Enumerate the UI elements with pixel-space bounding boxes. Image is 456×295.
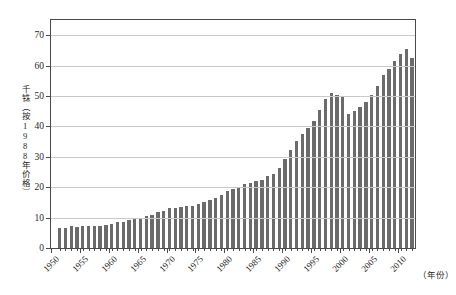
x-axis-minor-tick [77, 248, 78, 251]
x-axis-minor-tick [221, 248, 222, 251]
x-axis-tick [109, 248, 110, 253]
bar [335, 95, 338, 248]
chart-figure: 千铢（按1988年价格） 010203040506070195019551960… [0, 0, 456, 295]
x-axis-minor-tick [262, 248, 263, 251]
x-axis-minor-tick [245, 248, 246, 251]
bar [318, 110, 321, 248]
y-axis-tick [46, 35, 51, 36]
x-axis-minor-tick [94, 248, 95, 251]
bar-series [51, 20, 415, 248]
x-axis-minor-tick [89, 248, 90, 251]
x-axis-minor-tick [331, 248, 332, 251]
gridline [51, 35, 415, 36]
bar [410, 58, 413, 248]
bar [312, 121, 315, 248]
x-axis-minor-tick [250, 248, 251, 251]
bar [127, 220, 130, 248]
gridline [51, 157, 415, 158]
bar [70, 226, 73, 248]
x-axis-tick-label: 1965 [128, 254, 148, 274]
y-axis-tick-label: 70 [35, 30, 45, 40]
x-axis-tick-label: 2005 [359, 254, 379, 274]
plot-area: 0102030405060701950195519601965197019751… [50, 19, 416, 249]
y-axis-tick [46, 218, 51, 219]
x-axis-minor-tick [169, 248, 170, 251]
bar [64, 228, 67, 248]
bar [364, 102, 367, 248]
x-axis-minor-tick [302, 248, 303, 251]
x-axis-minor-tick [401, 248, 402, 251]
bar [376, 86, 379, 248]
x-axis-minor-tick [106, 248, 107, 251]
x-axis-minor-tick [117, 248, 118, 251]
bar [393, 61, 396, 248]
bar [104, 225, 107, 248]
bar [87, 226, 90, 248]
bar [249, 183, 252, 248]
x-axis-minor-tick [112, 248, 113, 251]
x-axis-minor-tick [65, 248, 66, 251]
x-axis-tick-label: 1960 [99, 254, 119, 274]
x-axis-minor-tick [123, 248, 124, 251]
x-axis-minor-tick [354, 248, 355, 251]
bar [116, 222, 119, 248]
x-axis-minor-tick [146, 248, 147, 251]
x-axis-minor-tick [268, 248, 269, 251]
bar [197, 204, 200, 248]
y-axis-tick-label: 60 [35, 61, 45, 71]
x-axis-tick [138, 248, 139, 253]
bar [81, 226, 84, 248]
gridline [51, 218, 415, 219]
y-axis-tick-label: 10 [35, 213, 45, 223]
x-axis-minor-tick [395, 248, 396, 251]
bar [110, 224, 113, 248]
bar [214, 198, 217, 248]
y-axis-tick [46, 96, 51, 97]
bar [133, 219, 136, 248]
bar [226, 191, 229, 248]
x-axis-tick-label: 1975 [186, 254, 206, 274]
bar [139, 218, 142, 248]
bar [283, 159, 286, 248]
bar [174, 208, 177, 248]
bar [168, 208, 171, 248]
bar [260, 180, 263, 248]
x-axis-minor-tick [337, 248, 338, 251]
x-axis-tick-label: 1980 [215, 254, 235, 274]
bar [162, 211, 165, 248]
x-axis-tick-label: 1990 [272, 254, 292, 274]
y-axis-tick [46, 187, 51, 188]
x-axis-minor-tick [349, 248, 350, 251]
x-axis-minor-tick [233, 248, 234, 251]
bar [353, 111, 356, 248]
x-axis-tick-label: 1955 [70, 254, 90, 274]
x-axis-minor-tick [210, 248, 211, 251]
x-axis-minor-tick [129, 248, 130, 251]
x-axis-minor-tick [198, 248, 199, 251]
bar [254, 181, 257, 248]
x-axis-tick [195, 248, 196, 253]
y-axis-tick-label: 50 [35, 91, 45, 101]
bar [330, 93, 333, 248]
x-axis-minor-tick [141, 248, 142, 251]
x-axis-tick-label: 1995 [301, 254, 321, 274]
bar [220, 195, 223, 248]
x-axis-minor-tick [372, 248, 373, 251]
x-axis-minor-tick [158, 248, 159, 251]
x-axis-minor-tick [366, 248, 367, 251]
y-axis-tick-label: 0 [39, 243, 44, 253]
x-axis-minor-tick [135, 248, 136, 251]
gridline [51, 66, 415, 67]
bar [399, 54, 402, 248]
x-axis-minor-tick [175, 248, 176, 251]
gridline [51, 187, 415, 188]
bar [191, 206, 194, 248]
x-axis-minor-tick [325, 248, 326, 251]
x-axis-minor-tick [187, 248, 188, 251]
bar [341, 96, 344, 248]
x-axis-tick [167, 248, 168, 253]
x-axis-minor-tick [314, 248, 315, 251]
y-axis-tick-label: 20 [35, 182, 45, 192]
bar [289, 150, 292, 248]
x-axis-minor-tick [377, 248, 378, 251]
